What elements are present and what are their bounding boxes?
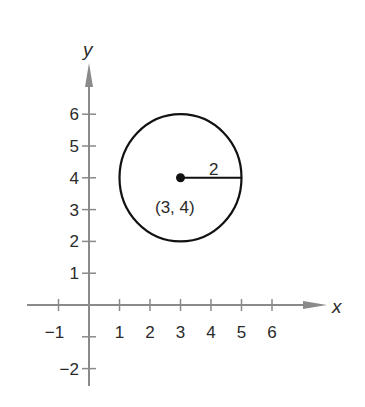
- y-tick-label: 1: [70, 264, 79, 283]
- y-tick-label: 4: [70, 169, 79, 188]
- y-tick-label: 5: [70, 137, 79, 156]
- x-tick-label: 1: [115, 323, 124, 342]
- x-tick-label: −1: [45, 323, 64, 342]
- x-axis-arrow-icon: [303, 301, 327, 309]
- circle-group: [120, 114, 242, 241]
- x-tick-label: 2: [145, 323, 154, 342]
- x-tick-label: 6: [267, 323, 276, 342]
- center-point: [176, 173, 185, 182]
- y-axis-label: y: [81, 39, 94, 60]
- x-axis-label: x: [331, 296, 343, 317]
- y-tick-label: 6: [70, 105, 79, 124]
- center-label: (3, 4): [155, 198, 195, 217]
- radius-label: 2: [209, 160, 218, 179]
- x-tick-label: 5: [237, 323, 246, 342]
- tick-labels: −1123456−2123456: [45, 105, 277, 378]
- coordinate-plane: −1123456−2123456 y x 2 (3, 4): [0, 0, 365, 407]
- y-tick-label: 2: [70, 232, 79, 251]
- x-tick-label: 3: [176, 323, 185, 342]
- y-tick-label: 3: [70, 201, 79, 220]
- y-tick-label: −2: [60, 360, 79, 379]
- y-axis-arrow-icon: [85, 63, 93, 87]
- x-tick-label: 4: [206, 323, 215, 342]
